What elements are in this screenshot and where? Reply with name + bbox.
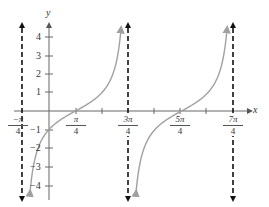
y-axis <box>45 25 53 200</box>
asymptote-right <box>230 22 236 202</box>
y-tick-label: −1 <box>30 125 41 135</box>
asymptote-left <box>19 22 25 202</box>
y-tick-label: 2 <box>36 69 41 79</box>
x-tick-label-pi-over-4: π 4 <box>66 115 86 136</box>
x-tick-label-neg-pi-over-4: −π 4 <box>8 115 28 136</box>
y-tick-label: 1 <box>36 87 41 97</box>
x-tick-label-5pi-over-4: 5π 4 <box>170 115 190 136</box>
y-tick-label: −4 <box>30 181 41 191</box>
x-axis-label: x <box>253 105 257 115</box>
y-tick-label: −2 <box>30 143 41 153</box>
y-tick-label: 3 <box>36 51 41 61</box>
y-tick-label: −3 <box>30 162 41 172</box>
y-tick-label: 4 <box>36 32 41 42</box>
asymptote-middle <box>125 22 131 202</box>
x-tick-label-3pi-over-4: 3π 4 <box>118 115 138 136</box>
x-tick-label-7pi-over-4: 7π 4 <box>223 115 243 136</box>
y-axis-label: y <box>46 8 50 18</box>
